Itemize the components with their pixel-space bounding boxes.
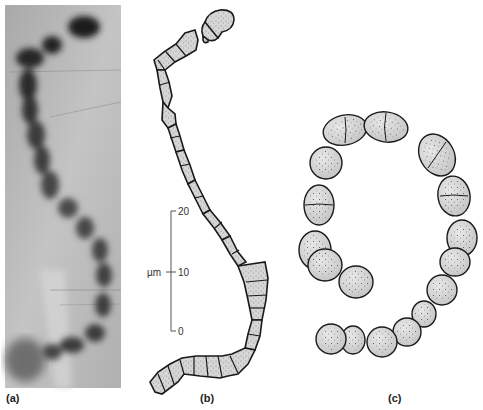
scale-bar	[166, 211, 176, 331]
panel-label-a: (a)	[6, 392, 19, 404]
scale-tick-0: 0	[178, 326, 184, 337]
filament-drawing-panel-b	[150, 10, 268, 394]
panel-label-b: (b)	[200, 392, 214, 404]
scale-tick-10: 10	[178, 267, 190, 278]
panel-label-c: (c)	[388, 392, 401, 404]
scale-tick-20: 20	[178, 206, 190, 217]
cell-chain-panel-c	[299, 109, 477, 357]
scale-unit: µm	[147, 267, 161, 278]
figure: 20 10 0 µm	[0, 0, 483, 410]
micrograph-panel-a	[5, 5, 121, 388]
